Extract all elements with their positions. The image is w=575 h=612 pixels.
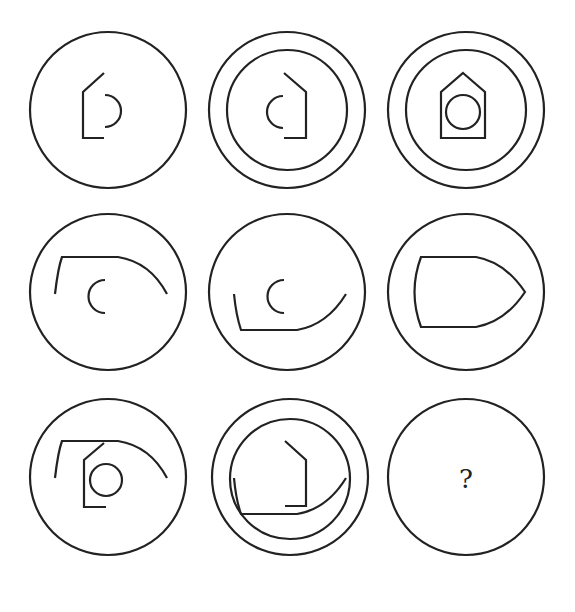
cell-r1c1 <box>30 32 186 188</box>
question-mark: ? <box>459 464 473 494</box>
house-left-half <box>83 73 104 138</box>
outer-ring <box>30 214 186 370</box>
circle-full <box>446 95 480 129</box>
puzzle-grid: ? <box>0 0 575 612</box>
outer-ring <box>209 214 365 370</box>
boat-upper-half <box>55 257 167 294</box>
cell-r3c1 <box>30 399 186 555</box>
cell-r2c3 <box>388 214 544 370</box>
outer-ring <box>388 214 544 370</box>
cell-r3c2 <box>212 399 368 555</box>
boat-lower-half <box>234 294 346 330</box>
half-circle-left <box>267 96 283 128</box>
outer-ring <box>30 399 186 555</box>
boat-lower-half <box>234 478 346 514</box>
house-right-half <box>284 73 306 138</box>
half-circle-right <box>105 95 121 127</box>
half-circle-left <box>268 280 285 313</box>
circle-full <box>90 464 122 496</box>
half-circle-left <box>89 280 106 313</box>
boat-full <box>415 257 526 327</box>
cell-r1c2 <box>209 32 365 188</box>
cell-r1c3 <box>388 32 544 188</box>
cell-r3c3[interactable]: ? <box>388 399 544 555</box>
outer-ring <box>212 399 368 555</box>
inner-ring <box>230 419 350 539</box>
house-right-half <box>285 441 306 506</box>
house-left-half <box>84 443 106 507</box>
outer-ring <box>30 32 186 188</box>
inner-ring <box>227 50 347 170</box>
outer-ring <box>388 32 544 188</box>
outer-ring <box>209 32 365 188</box>
cell-r2c1 <box>30 214 186 370</box>
boat-upper-half <box>55 441 167 478</box>
inner-ring <box>406 50 526 170</box>
cell-r2c2 <box>209 214 365 370</box>
